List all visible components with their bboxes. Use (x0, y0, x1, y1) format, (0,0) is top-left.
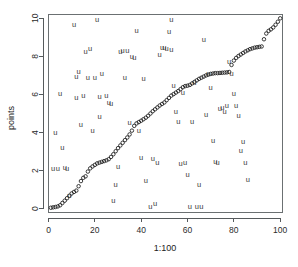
data-point-circle (130, 129, 134, 133)
data-point-circle (151, 109, 155, 113)
data-point-glyph: u (211, 136, 215, 145)
data-point-glyph: u (225, 101, 229, 110)
data-point-glyph: u (100, 69, 104, 78)
data-point-glyph: u (90, 126, 94, 135)
x-tick-label: 20 (90, 225, 100, 235)
data-point-glyph: u (60, 143, 64, 152)
data-point-glyph: u (204, 110, 208, 119)
data-point-glyph: u (79, 120, 83, 129)
x-tick-label: 40 (136, 225, 146, 235)
data-point-glyph: u (181, 88, 185, 97)
data-point-glyph: u (81, 91, 85, 100)
data-point-circle (234, 56, 238, 60)
data-point-glyph: u (227, 57, 231, 66)
data-point-glyph: u (241, 137, 245, 146)
data-point-glyph: u (97, 92, 101, 101)
data-point-glyph: u (67, 191, 71, 200)
data-point-glyph: u (202, 35, 206, 44)
data-point-glyph: u (155, 158, 159, 167)
data-point-glyph: u (190, 117, 194, 126)
x-tick-label: 100 (273, 225, 287, 235)
data-point-glyph: u (74, 93, 78, 102)
y-axis-ticks: 0246810 (31, 13, 44, 211)
data-point-circle (260, 45, 264, 49)
data-point-glyph: u (167, 27, 171, 36)
data-point-circle (276, 20, 280, 24)
data-point-glyph: u (144, 176, 148, 185)
data-point-glyph: u (216, 0, 220, 2)
data-point-glyph: u (236, 111, 240, 120)
data-point-glyph: u (216, 158, 220, 167)
data-point-glyph: u (192, 78, 196, 87)
data-point-glyph: u (93, 73, 97, 82)
data-point-glyph: u (109, 99, 113, 108)
data-point-glyph: u (72, 20, 76, 29)
data-point-glyph: u (139, 153, 143, 162)
data-point-glyph: u (239, 146, 243, 155)
data-point-glyph: u (183, 158, 187, 167)
data-point-glyph: u (134, 26, 138, 35)
data-point-glyph: u (206, 69, 210, 78)
data-point-circle (128, 133, 132, 137)
data-point-glyph: u (125, 46, 129, 55)
data-point-circle (278, 17, 282, 21)
data-point-glyph: u (137, 126, 141, 135)
data-point-glyph: u (95, 15, 99, 24)
data-point-glyph: u (209, 83, 213, 92)
data-point-glyph: u (123, 73, 127, 82)
data-point-glyph: u (97, 112, 101, 121)
data-point-circle (88, 167, 92, 171)
data-point-glyph: u (234, 101, 238, 110)
data-point-glyph: u (65, 164, 69, 173)
data-point-glyph: u (51, 164, 55, 173)
data-point-glyph: u (165, 44, 169, 53)
data-point-glyph: u (169, 45, 173, 54)
y-tick-label: 10 (31, 13, 41, 23)
data-point-glyph: u (174, 107, 178, 116)
data-point-glyph: u (141, 74, 145, 83)
scatter-plot: 020406080100 0246810 uuuuuuuuuuuuuuuuuuu… (0, 0, 298, 267)
data-point-glyph: u (169, 15, 173, 24)
x-tick-label: 80 (229, 225, 239, 235)
y-tick-label: 6 (31, 92, 41, 97)
data-point-circle (79, 179, 83, 183)
data-point-circle (77, 184, 81, 188)
data-point-glyph: u (111, 196, 115, 205)
data-point-glyph: u (243, 158, 247, 167)
data-point-glyph: u (58, 89, 62, 98)
data-point-glyph: u (83, 47, 87, 56)
chart-container: 020406080100 0246810 uuuuuuuuuuuuuuuuuuu… (0, 0, 298, 267)
data-point-glyph: u (53, 128, 57, 137)
data-point-glyph: u (199, 202, 203, 211)
data-point-glyph: u (114, 180, 118, 189)
data-point-glyph: u (128, 118, 132, 127)
data-point-glyph: u (153, 199, 157, 208)
data-point-glyph: u (86, 73, 90, 82)
data-point-glyph: u (197, 180, 201, 189)
data-point-circle (86, 170, 90, 174)
data-point-glyph: u (121, 46, 125, 55)
data-point-glyph: u (172, 81, 176, 90)
series-random-points: uuuuuuuuuuuuuuuuuuuuuuuuuuuuuuuuuuuuuuuu… (51, 0, 282, 211)
x-axis-title: 1:100 (154, 243, 177, 253)
y-tick-label: 0 (31, 206, 41, 211)
data-point-glyph: u (151, 154, 155, 163)
data-point-glyph: u (56, 164, 60, 173)
data-point-glyph: u (176, 117, 180, 126)
data-point-glyph: u (195, 202, 199, 211)
y-axis-title: points (6, 105, 16, 130)
y-tick-label: 2 (31, 168, 41, 173)
data-point-glyph: u (232, 89, 236, 98)
data-point-glyph: u (132, 53, 136, 62)
y-tick-label: 8 (31, 54, 41, 59)
y-tick-label: 4 (31, 130, 41, 135)
data-point-glyph: u (229, 69, 233, 78)
data-point-glyph: u (185, 170, 189, 179)
data-point-glyph: u (178, 159, 182, 168)
data-point-glyph: u (148, 202, 152, 211)
x-axis-ticks: 020406080100 (46, 218, 287, 235)
data-point-circle (156, 106, 160, 110)
data-point-circle (262, 38, 266, 42)
data-point-glyph: u (246, 175, 250, 184)
data-point-glyph: u (116, 162, 120, 171)
